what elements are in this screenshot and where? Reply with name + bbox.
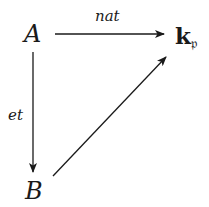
node-k-p: k𝔭 [175,24,197,50]
label-nat: nat [95,9,120,24]
node-k-subscript: 𝔭 [191,35,197,51]
arrow-b-to-k [53,57,166,176]
label-et: et [8,108,23,123]
node-k-main: k [175,22,191,49]
node-b: B [25,179,43,203]
node-a: A [24,22,41,46]
